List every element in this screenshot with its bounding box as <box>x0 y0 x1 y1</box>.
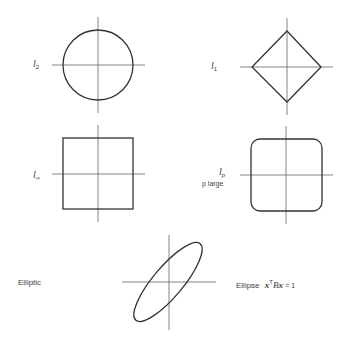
linf-panel <box>52 125 145 222</box>
ellipse-equation-caption: Ellipse xTBx = 1 <box>236 279 295 290</box>
ellipse-caption-rhs: = 1 <box>285 282 295 289</box>
l1-label: l1 <box>211 61 217 72</box>
lp-label-subscript: p <box>222 172 225 178</box>
lp-label: lp <box>219 167 225 178</box>
linf-label: l∞ <box>33 170 40 181</box>
l1-unit-diamond <box>252 31 321 102</box>
l2-label: l2 <box>33 59 39 70</box>
l1-panel <box>240 18 333 115</box>
l1-label-subscript: 1 <box>214 66 217 72</box>
lp-panel <box>240 126 333 224</box>
l2-panel <box>52 17 145 113</box>
norm-unit-balls-diagram <box>0 0 348 347</box>
lp-sublabel: p large <box>202 180 223 187</box>
l2-label-subscript: 2 <box>36 64 39 70</box>
elliptic-panel <box>122 234 216 330</box>
elliptic-label: Elliptic <box>18 279 41 287</box>
ellipse-caption-prefix: Ellipse <box>236 281 260 290</box>
linf-label-subscript: ∞ <box>36 175 40 181</box>
ellipse-caption-x2: x <box>278 280 283 290</box>
